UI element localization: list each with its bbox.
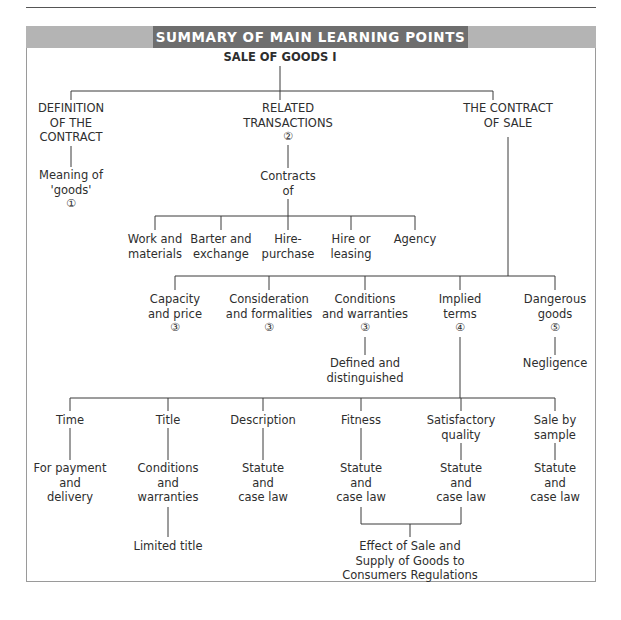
node-line: Statute <box>336 461 386 476</box>
node-hire-or-leasing: Hire or leasing <box>330 232 371 261</box>
node-line: Meaning of <box>39 168 103 183</box>
node-line: case law <box>238 490 288 505</box>
node-fitness: Fitness <box>341 413 381 428</box>
node-sale-by-sample: Sale by sample <box>534 413 576 442</box>
node-line: leasing <box>330 247 371 262</box>
node-line: and <box>34 476 107 491</box>
node-line: Conditions <box>322 292 408 307</box>
node-negligence: Negligence <box>523 356 587 371</box>
node-line: and <box>336 476 386 491</box>
node-line: Consumers Regulations <box>342 568 478 583</box>
node-satisfactory-statute: Statute and case law <box>436 461 486 505</box>
node-satisfactory-quality: Satisfactory quality <box>427 413 496 442</box>
node-line: and <box>530 476 580 491</box>
node-line: case law <box>336 490 386 505</box>
node-line: case law <box>530 490 580 505</box>
node-line: and <box>138 476 199 491</box>
node-description-statute: Statute and case law <box>238 461 288 505</box>
node-line: TRANSACTIONS <box>243 116 333 131</box>
node-line: and warranties <box>322 307 408 322</box>
node-line: Agency <box>394 232 437 247</box>
chapter-ref: ③ <box>226 321 312 336</box>
node-time: Time <box>56 413 84 428</box>
node-line: Work and <box>128 232 182 247</box>
root-label: SALE OF GOODS I <box>223 50 336 65</box>
node-line: CONTRACT <box>38 130 104 145</box>
node-line: THE CONTRACT <box>463 101 553 116</box>
node-line: Dangerous <box>524 292 586 307</box>
node-line: Title <box>156 413 181 428</box>
node-consideration-and-formalities: Consideration and formalities ③ <box>226 292 312 336</box>
node-line: of <box>260 184 315 199</box>
node-dangerous-goods: Dangerous goods ⑤ <box>524 292 586 336</box>
node-line: RELATED <box>243 101 333 116</box>
node-definition-of-contract: DEFINITION OF THE CONTRACT <box>38 101 104 145</box>
node-line: materials <box>128 247 182 262</box>
node-line: DEFINITION <box>38 101 104 116</box>
chapter-ref: ② <box>243 130 333 145</box>
node-for-payment-and-delivery: For payment and delivery <box>34 461 107 505</box>
chapter-ref: ⑤ <box>524 321 586 336</box>
node-line: Consideration <box>226 292 312 307</box>
node-title-conditions-and-warranties: Conditions and warranties <box>138 461 199 505</box>
node-line: case law <box>436 490 486 505</box>
node-barter-and-exchange: Barter and exchange <box>190 232 251 261</box>
node-line: Statute <box>436 461 486 476</box>
node-line: Hire- <box>262 232 315 247</box>
node-fitness-statute: Statute and case law <box>336 461 386 505</box>
node-line: and price <box>148 307 202 322</box>
node-line: distinguished <box>327 371 404 386</box>
node-line: Barter and <box>190 232 251 247</box>
node-line: delivery <box>34 490 107 505</box>
node-line: Description <box>230 413 296 428</box>
node-conditions-and-warranties: Conditions and warranties ③ <box>322 292 408 336</box>
node-limited-title: Limited title <box>133 539 202 554</box>
node-line: Statute <box>238 461 288 476</box>
node-line: Statute <box>530 461 580 476</box>
node-line: OF SALE <box>463 116 553 131</box>
node-line: goods <box>524 307 586 322</box>
node-line: Defined and <box>327 356 404 371</box>
node-line: Satisfactory <box>427 413 496 428</box>
node-line: Implied <box>439 292 482 307</box>
node-line: terms <box>439 307 482 322</box>
node-consumer-regulations: Effect of Sale and Supply of Goods to Co… <box>342 539 478 583</box>
node-line: and formalities <box>226 307 312 322</box>
node-agency: Agency <box>394 232 437 247</box>
chapter-ref: ③ <box>148 321 202 336</box>
node-line: exchange <box>190 247 251 262</box>
node-line: OF THE <box>38 116 104 131</box>
node-line: Capacity <box>148 292 202 307</box>
node-line: Time <box>56 413 84 428</box>
node-capacity-and-price: Capacity and price ③ <box>148 292 202 336</box>
node-line: warranties <box>138 490 199 505</box>
node-description: Description <box>230 413 296 428</box>
node-implied-terms: Implied terms ④ <box>439 292 482 336</box>
node-work-and-materials: Work and materials <box>128 232 182 261</box>
node-contracts-of: Contracts of <box>260 169 315 198</box>
node-line: sample <box>534 428 576 443</box>
node-line: Limited title <box>133 539 202 554</box>
node-line: Conditions <box>138 461 199 476</box>
node-line: Negligence <box>523 356 587 371</box>
chapter-ref: ④ <box>439 321 482 336</box>
node-line: Contracts <box>260 169 315 184</box>
node-line: Supply of Goods to <box>342 554 478 569</box>
node-line: For payment <box>34 461 107 476</box>
node-defined-and-distinguished: Defined and distinguished <box>327 356 404 385</box>
node-line: and <box>436 476 486 491</box>
node-line: quality <box>427 428 496 443</box>
node-line: Fitness <box>341 413 381 428</box>
node-hire-purchase: Hire- purchase <box>262 232 315 261</box>
node-line: Sale by <box>534 413 576 428</box>
chapter-ref: ③ <box>322 321 408 336</box>
node-line: Effect of Sale and <box>342 539 478 554</box>
root-node: SALE OF GOODS I <box>223 50 336 65</box>
node-related-transactions: RELATED TRANSACTIONS ② <box>243 101 333 145</box>
node-line: 'goods' <box>39 183 103 198</box>
node-line: purchase <box>262 247 315 262</box>
node-contract-of-sale: THE CONTRACT OF SALE <box>463 101 553 130</box>
node-sample-statute: Statute and case law <box>530 461 580 505</box>
chapter-ref: ① <box>39 197 103 212</box>
node-line: Hire or <box>330 232 371 247</box>
